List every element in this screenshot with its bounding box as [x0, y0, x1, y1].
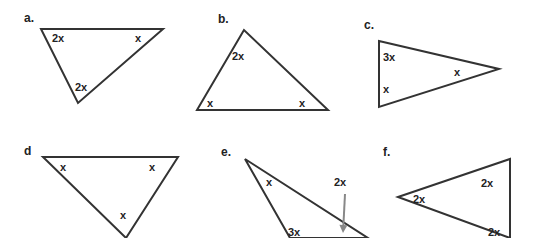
angle-label: x: [299, 97, 306, 109]
panel-label: d: [24, 144, 31, 158]
angle-label: 2x: [75, 81, 88, 93]
angle-label: x: [60, 161, 67, 173]
angle-label: x: [149, 161, 156, 173]
triangle-a: a.2xx2x: [24, 11, 163, 103]
panel-label: e.: [221, 145, 231, 159]
angle-label: 3x: [288, 226, 301, 238]
triangle-outline: [379, 41, 499, 107]
triangle-worksheet: a.2xx2xb.2xxxc.3xxxdxxxe.x2x3xf.2x2x2x: [0, 0, 537, 238]
triangle-b: b.2xxx: [197, 12, 328, 110]
angle-label: x: [266, 176, 273, 188]
panel-label: a.: [24, 11, 34, 25]
angle-label: 3x: [383, 51, 396, 63]
pointer-arrow: [343, 194, 345, 225]
angle-label: 2x: [334, 176, 347, 188]
angle-label: x: [207, 97, 214, 109]
panel-label: c.: [364, 18, 374, 32]
angle-label: 2x: [52, 32, 65, 44]
triangle-outline: [197, 30, 328, 110]
triangle-e: e.x2x3x: [221, 145, 368, 238]
angle-label: 2x: [488, 226, 501, 238]
triangle-outline: [245, 159, 368, 238]
angle-label: x: [454, 66, 461, 78]
panel-label: f.: [383, 145, 390, 159]
angle-label: x: [120, 209, 127, 221]
triangle-c: c.3xxx: [364, 18, 499, 107]
arrowhead-icon: [339, 225, 347, 233]
triangle-f: f.2x2x2x: [383, 145, 510, 238]
angle-label: 2x: [413, 193, 426, 205]
triangle-d: dxxx: [24, 144, 178, 238]
angle-label: 2x: [481, 177, 494, 189]
panel-label: b.: [218, 12, 229, 26]
angle-label: x: [135, 32, 142, 44]
angle-label: 2x: [232, 50, 245, 62]
angle-label: x: [383, 83, 390, 95]
triangles-layer: a.2xx2xb.2xxxc.3xxxdxxxe.x2x3xf.2x2x2x: [24, 11, 510, 238]
